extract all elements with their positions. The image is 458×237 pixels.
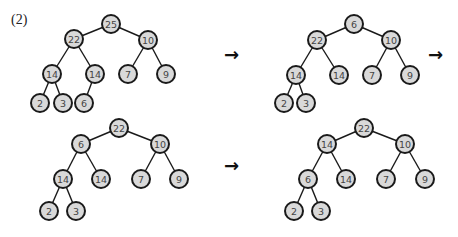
node-value: 22 [113,123,125,134]
tree-node: 3 [67,202,85,220]
node-value: 10 [399,139,411,150]
right-arrow-icon: → [224,157,239,175]
node-value: 9 [407,70,413,81]
tree-node: 6 [72,135,90,153]
tree-node: 14 [86,65,104,83]
tree-node: 3 [54,94,72,112]
node-value: 14 [340,174,352,185]
tree-node: 14 [287,66,305,84]
tree-node: 6 [299,170,317,188]
node-value: 6 [305,174,311,185]
node-value: 14 [290,70,302,81]
tree-node: 2 [40,202,58,220]
node-value: 14 [333,70,345,81]
tree-node: 7 [363,66,381,84]
node-value: 14 [321,139,333,150]
node-value: 10 [142,35,154,46]
node-value: 2 [281,98,287,109]
node-value: 22 [311,35,323,46]
node-value: 14 [95,174,107,185]
node-value: 3 [303,98,309,109]
node-value: 3 [60,98,66,109]
right-arrow-icon: → [224,46,239,64]
tree-node: 9 [416,170,434,188]
tree-node: 7 [377,170,395,188]
node-value: 25 [105,19,117,30]
tree-node: 10 [139,31,157,49]
tree-node: 14 [337,170,355,188]
heap-trees: 2522101414792366221014147923226101414792… [0,0,458,237]
tree-node: 3 [297,94,315,112]
node-value: 10 [154,139,166,150]
node-value: 14 [46,69,58,80]
tree-node: 10 [382,31,400,49]
tree-step-3: 2261014147923 [40,119,188,220]
tree-node: 9 [157,65,175,83]
node-value: 9 [422,174,428,185]
tree-step-4: 2214106147923 [285,119,434,220]
heap-diagram: (2) 252210141479236622101414792322610141… [0,0,458,237]
tree-node: 6 [345,15,363,33]
tree-node: 22 [65,30,83,48]
node-value: 14 [57,174,69,185]
node-value: 6 [78,139,84,150]
node-value: 6 [351,19,357,30]
tree-node: 14 [92,170,110,188]
node-value: 2 [291,206,297,217]
right-arrow-icon: → [428,46,443,64]
tree-step-2: 6221014147923 [275,15,419,112]
node-value: 7 [125,69,131,80]
node-value: 3 [318,206,324,217]
node-value: 9 [163,69,169,80]
tree-node: 10 [396,135,414,153]
node-value: 6 [81,98,87,109]
tree-node: 9 [401,66,419,84]
tree-node: 14 [54,170,72,188]
tree-node: 22 [308,31,326,49]
tree-node: 9 [170,170,188,188]
tree-node: 14 [43,65,61,83]
tree-node: 22 [355,119,373,137]
node-value: 7 [138,174,144,185]
tree-node: 2 [285,202,303,220]
node-value: 3 [73,206,79,217]
tree-node: 14 [330,66,348,84]
tree-step-1: 252210141479236 [31,15,175,112]
node-value: 14 [89,69,101,80]
tree-node: 7 [132,170,150,188]
tree-node: 3 [312,202,330,220]
tree-node: 22 [110,119,128,137]
node-value: 7 [383,174,389,185]
node-value: 10 [385,35,397,46]
tree-node: 25 [102,15,120,33]
node-value: 2 [37,98,43,109]
tree-node: 2 [31,94,49,112]
tree-node: 10 [151,135,169,153]
tree-node: 14 [318,135,336,153]
tree-node: 6 [75,94,93,112]
node-value: 7 [369,70,375,81]
tree-node: 2 [275,94,293,112]
tree-node: 7 [119,65,137,83]
node-value: 22 [68,34,80,45]
node-value: 9 [176,174,182,185]
node-value: 2 [46,206,52,217]
node-value: 22 [358,123,370,134]
